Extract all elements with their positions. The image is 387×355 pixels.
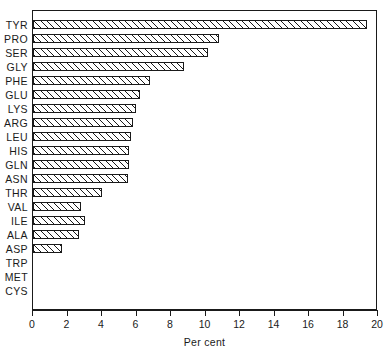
x-tick-label-10: 10: [190, 318, 220, 331]
bar-row: [33, 242, 377, 256]
bar-ser: [33, 48, 208, 57]
y-axis-label-phe: PHE: [0, 74, 28, 88]
y-axis-label-pro: PRO: [0, 32, 28, 46]
bar-row: [33, 214, 377, 228]
bar-chart-figure: TYRPROSERGLYPHEGLULYSARGLEUHISGLNASNTHRV…: [0, 0, 387, 355]
bar-row: [33, 200, 377, 214]
bar-gly: [33, 62, 184, 71]
x-tick-label-6: 6: [121, 318, 151, 331]
x-tick-14: [274, 310, 275, 316]
bar-ile: [33, 216, 85, 225]
x-tick-8: [170, 310, 171, 316]
x-tick-4: [101, 310, 102, 316]
bar-tyr: [33, 20, 367, 29]
y-axis-label-leu: LEU: [0, 130, 28, 144]
bar-row: [33, 130, 377, 144]
bar-row: [33, 18, 377, 32]
bar-val: [33, 202, 81, 211]
bar-row: [33, 172, 377, 186]
bar-row: [33, 116, 377, 130]
bar-arg: [33, 118, 133, 127]
bar-his: [33, 146, 129, 155]
y-axis-label-gln: GLN: [0, 158, 28, 172]
y-axis-label-trp: TRP: [0, 256, 28, 270]
y-axis-label-tyr: TYR: [0, 18, 28, 32]
bar-lys: [33, 104, 136, 113]
bar-row: [33, 32, 377, 46]
x-axis-start-cap: [32, 310, 33, 316]
bar-row: [33, 270, 377, 284]
x-tick-12: [239, 310, 240, 316]
y-axis-label-asp: ASP: [0, 242, 28, 256]
x-tick-label-8: 8: [155, 318, 185, 331]
bar-row: [33, 284, 377, 298]
x-tick-label-2: 2: [52, 318, 82, 331]
x-axis-end-cap: [377, 310, 378, 316]
bar-row: [33, 60, 377, 74]
bar-asp: [33, 244, 62, 253]
y-axis-label-gly: GLY: [0, 60, 28, 74]
y-axis-label-thr: THR: [0, 186, 28, 200]
y-axis-category-labels: TYRPROSERGLYPHEGLULYSARGLEUHISGLNASNTHRV…: [0, 11, 28, 309]
y-axis-label-val: VAL: [0, 200, 28, 214]
bar-row: [33, 102, 377, 116]
bar-row: [33, 74, 377, 88]
bar-glu: [33, 90, 140, 99]
bar-phe: [33, 76, 150, 85]
x-tick-label-0: 0: [17, 318, 47, 331]
bar-pro: [33, 34, 219, 43]
bar-row: [33, 46, 377, 60]
x-tick-16: [308, 310, 309, 316]
x-tick-2: [67, 310, 68, 316]
x-tick-label-12: 12: [224, 318, 254, 331]
x-tick-label-18: 18: [328, 318, 358, 331]
y-axis-label-met: MET: [0, 270, 28, 284]
y-axis-label-arg: ARG: [0, 116, 28, 130]
y-axis-label-asn: ASN: [0, 172, 28, 186]
bar-gln: [33, 160, 129, 169]
bar-row: [33, 88, 377, 102]
bar-row: [33, 158, 377, 172]
bar-ala: [33, 230, 79, 239]
x-tick-label-14: 14: [259, 318, 289, 331]
x-tick-label-4: 4: [86, 318, 116, 331]
x-tick-6: [136, 310, 137, 316]
y-axis-label-ala: ALA: [0, 228, 28, 242]
x-tick-label-16: 16: [293, 318, 323, 331]
x-tick-10: [205, 310, 206, 316]
bar-leu: [33, 132, 131, 141]
bars-layer: [33, 11, 377, 309]
bar-row: [33, 256, 377, 270]
y-axis-label-ser: SER: [0, 46, 28, 60]
y-axis-label-cys: CYS: [0, 284, 28, 298]
x-axis-title: Per cent: [32, 336, 377, 348]
bar-row: [33, 186, 377, 200]
y-axis-label-his: HIS: [0, 144, 28, 158]
y-axis-label-ile: ILE: [0, 214, 28, 228]
y-axis-label-glu: GLU: [0, 88, 28, 102]
bar-asn: [33, 174, 128, 183]
y-axis-label-lys: LYS: [0, 102, 28, 116]
bar-row: [33, 144, 377, 158]
bar-row: [33, 228, 377, 242]
bar-thr: [33, 188, 102, 197]
x-tick-label-20: 20: [362, 318, 387, 331]
x-tick-18: [343, 310, 344, 316]
